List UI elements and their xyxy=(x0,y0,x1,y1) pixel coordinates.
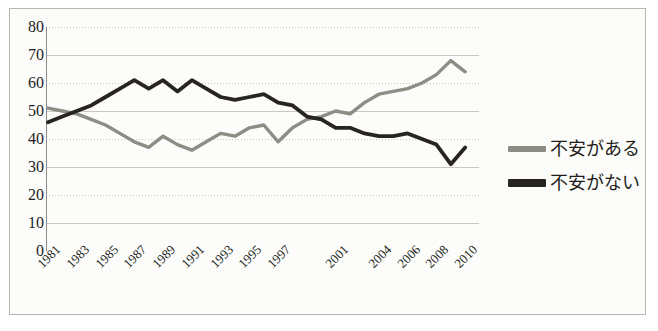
x-tick-label: 1991 xyxy=(179,243,207,271)
x-tick-label: 1985 xyxy=(93,243,121,271)
x-tick-label: 1981 xyxy=(35,243,63,271)
legend-swatch-anxious xyxy=(508,146,546,152)
chart-root: 80706050403020100 1981198319851987198919… xyxy=(0,0,658,331)
legend-item-not-anxious: 不安がない xyxy=(508,166,646,200)
legend-item-anxious: 不安がある xyxy=(508,132,646,166)
x-tick-label: 1993 xyxy=(208,243,236,271)
x-tick-label: 2010 xyxy=(452,243,480,271)
x-tick-label: 1983 xyxy=(64,243,92,271)
x-tick-label: 2004 xyxy=(366,243,394,271)
x-tick-label: 2006 xyxy=(395,243,423,271)
x-tick-label: 2008 xyxy=(423,243,451,271)
x-tick-label: 1997 xyxy=(265,243,293,271)
x-tick-label: 1987 xyxy=(121,243,149,271)
chart-legend: 不安がある 不安がない xyxy=(508,132,646,200)
legend-swatch-not-anxious xyxy=(508,179,546,187)
legend-label-not-anxious: 不安がない xyxy=(550,173,640,193)
legend-label-anxious: 不安がある xyxy=(550,139,640,159)
x-tick-label: 1989 xyxy=(150,243,178,271)
x-tick-label: 2001 xyxy=(323,243,351,271)
x-tick-label: 1995 xyxy=(236,243,264,271)
